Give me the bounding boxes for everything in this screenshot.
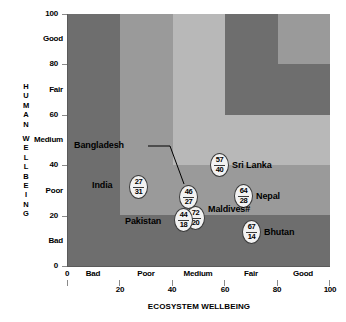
y-axis-title-char: I [20, 190, 32, 199]
data-point-pakistan[interactable]: 44 18 [174, 208, 193, 232]
india-eco-value: 27 [135, 178, 143, 187]
x-tick-label-20: 20 [105, 285, 135, 294]
pakistan-hum-value: 18 [180, 221, 188, 230]
data-point-india[interactable]: 27 31 [129, 175, 148, 199]
barometer-of-sustainability-chart: 27 31 46 27 72 20 44 18 57 40 [0, 0, 346, 322]
y-axis-line [67, 14, 68, 266]
x-axis-title: ECOSYSTEM WELLBEING [68, 302, 330, 311]
y-tick-mark [62, 115, 67, 116]
country-label-bhutan: Bhutan [264, 227, 294, 237]
sri-lanka-hum-value: 40 [216, 166, 224, 175]
data-point-sri-lanka[interactable]: 57 40 [210, 153, 229, 177]
country-label-sri-lanka: Sri Lanka [232, 160, 272, 170]
y-axis-title-char: G [20, 209, 32, 218]
y-tick-label-80: 80 [32, 59, 58, 68]
y-tick-label-20: 20 [32, 211, 58, 220]
y-axis-title-char: N [20, 120, 32, 129]
y-tick-label-40: 40 [32, 160, 58, 169]
x-category-fair: Fair [225, 269, 277, 278]
y-axis-title-char: E [20, 181, 32, 190]
y-axis-title-char: B [20, 172, 32, 181]
y-tick-label-100: 100 [32, 9, 58, 18]
x-category-poor: Poor [120, 269, 172, 278]
y-axis-title-char: N [20, 200, 32, 209]
y-category-good: Good [19, 34, 63, 43]
y-tick-mark [62, 64, 67, 65]
y-axis-title-char: M [20, 101, 32, 110]
x-tick-label-80: 80 [262, 285, 292, 294]
y-axis-title-char: E [20, 143, 32, 152]
country-label-india: India [92, 180, 113, 190]
nepal-eco-value: 64 [240, 187, 248, 196]
country-label-pakistan: Pakistan [125, 216, 161, 226]
band-topright-light [278, 14, 330, 64]
y-tick-mark [62, 14, 67, 15]
y-axis-title-char: H [20, 82, 32, 91]
x-tick-label-60: 60 [210, 285, 240, 294]
y-tick-mark [62, 165, 67, 166]
y-tick-mark [62, 266, 67, 267]
plot-area: 27 31 46 27 72 20 44 18 57 40 [68, 14, 330, 266]
data-point-bangladesh[interactable]: 46 27 [179, 185, 198, 209]
y-axis-title-char: L [20, 162, 32, 171]
maldives-eco-value: 72 [192, 209, 200, 218]
y-axis-title-char: W [20, 134, 32, 143]
bangladesh-hum-value: 27 [185, 198, 193, 207]
x-category-medium: Medium [172, 269, 224, 278]
pakistan-eco-value: 44 [180, 211, 188, 220]
y-tick-label-60: 60 [32, 110, 58, 119]
data-point-bhutan[interactable]: 67 14 [242, 220, 261, 244]
bangladesh-eco-value: 46 [185, 188, 193, 197]
bangladesh-leader-line [146, 142, 206, 192]
x-category-bad: Bad [67, 269, 119, 278]
x-tick-label-100: 100 [315, 285, 345, 294]
country-label-nepal: Nepal [256, 191, 280, 201]
y-axis-title: H U M A N W E L L B E I N G [20, 82, 32, 219]
x-tick-label-40: 40 [157, 285, 187, 294]
x-axis-line [67, 266, 330, 267]
bhutan-hum-value: 14 [248, 233, 256, 242]
x-category-good: Good [277, 269, 329, 278]
y-axis-title-char: A [20, 110, 32, 119]
country-label-maldives: Maldives# [208, 204, 250, 214]
y-category-bad: Bad [19, 236, 63, 245]
sri-lanka-eco-value: 57 [216, 156, 224, 165]
y-axis-title-char: U [20, 91, 32, 100]
india-hum-value: 31 [135, 188, 143, 197]
country-label-bangladesh: Bangladesh [74, 140, 124, 150]
bhutan-eco-value: 67 [248, 223, 256, 232]
y-axis-title-char: L [20, 153, 32, 162]
x-tick-mark [67, 280, 68, 286]
y-tick-mark [62, 216, 67, 217]
